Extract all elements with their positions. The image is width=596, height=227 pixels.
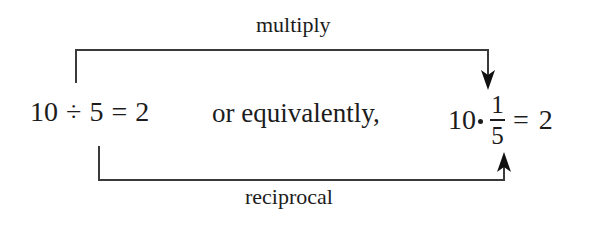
division-operator: ÷ (66, 96, 81, 127)
division-expression: 10÷5=2 (30, 98, 149, 126)
fraction-denominator: 5 (491, 121, 504, 148)
divisor: 5 (89, 96, 103, 127)
equivalence-text: or equivalently, (212, 100, 380, 127)
dividend: 10 (30, 96, 58, 127)
reciprocal-fraction: 1 5 (490, 92, 505, 148)
division-as-multiplication-diagram: multiply 10÷5=2 or equivalently, 10 1 5 … (0, 0, 596, 227)
multiply-label: multiply (256, 14, 331, 36)
equals-sign: = (111, 96, 127, 127)
equals-sign: = (513, 104, 529, 136)
reciprocal-arrow (99, 146, 511, 180)
multiply-arrow (76, 50, 495, 90)
fraction-numerator: 1 (491, 92, 504, 119)
result: 2 (539, 104, 553, 136)
multiplication-dot (478, 119, 483, 124)
result: 2 (135, 96, 149, 127)
factor: 10 (448, 104, 476, 136)
reciprocal-label: reciprocal (245, 186, 333, 208)
multiplication-expression: 10 1 5 = 2 (448, 92, 559, 148)
